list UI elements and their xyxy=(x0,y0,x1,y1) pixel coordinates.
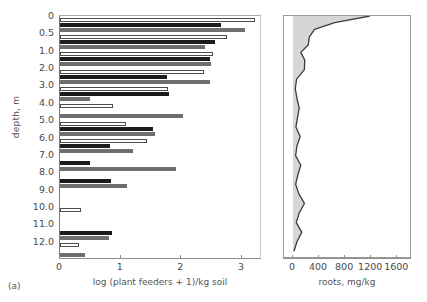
y-tick-label: 2.0 xyxy=(20,63,54,73)
bar-k xyxy=(60,40,215,44)
bar-w xyxy=(60,104,113,108)
roots-area-chart xyxy=(284,16,410,257)
left-x-tick xyxy=(180,255,181,259)
bar-k xyxy=(60,23,221,27)
figure-caption: (a) xyxy=(8,281,21,291)
y-tick-label: 7.0 xyxy=(20,150,54,160)
bar-group xyxy=(60,33,260,50)
bar-w xyxy=(60,243,79,247)
bar-w xyxy=(60,52,213,56)
bar-chart-panel xyxy=(59,15,261,258)
y-tick-label: 6.0 xyxy=(20,133,54,143)
y-tick-label: 10.0 xyxy=(20,202,54,212)
bar-g xyxy=(60,80,210,84)
left-x-tick-label: 3 xyxy=(238,261,244,272)
roots-line xyxy=(294,16,370,251)
left-x-tick-label: 1 xyxy=(117,261,123,272)
bar-k xyxy=(60,231,112,235)
left-x-axis: 0123 xyxy=(59,258,261,278)
bar-w xyxy=(60,139,147,143)
y-tick-label: 5.0 xyxy=(20,115,54,125)
bar-g xyxy=(60,253,85,257)
bar-group xyxy=(60,103,260,120)
right-x-axis-title: roots, mg/kg xyxy=(283,277,411,287)
right-x-tick xyxy=(396,255,397,259)
bar-g xyxy=(60,132,155,136)
y-axis-title: depth, m xyxy=(11,72,21,162)
bar-group xyxy=(60,224,260,241)
right-x-tick-label: 1600 xyxy=(384,261,408,272)
bar-g xyxy=(60,62,211,66)
roots-fill-area xyxy=(293,16,370,251)
y-tick-label: 3.0 xyxy=(20,81,54,91)
bar-g xyxy=(60,184,127,188)
bar-w xyxy=(60,70,204,74)
bar-group xyxy=(60,190,260,207)
bar-k xyxy=(60,92,169,96)
y-axis: 00.51.02.03.04.05.06.07.08.09.010.011.01… xyxy=(16,0,54,302)
y-tick-label: 8.0 xyxy=(20,167,54,177)
bar-w xyxy=(60,35,227,39)
bar-group xyxy=(60,155,260,172)
bar-group xyxy=(60,172,260,189)
bar-k xyxy=(60,75,167,79)
bar-g xyxy=(60,114,183,118)
left-x-tick-label: 0 xyxy=(56,261,62,272)
right-x-tick xyxy=(292,255,293,259)
left-x-tick-label: 2 xyxy=(177,261,183,272)
bar-group xyxy=(60,51,260,68)
bar-k xyxy=(60,179,111,183)
y-tick-label: 0 xyxy=(20,11,54,21)
left-x-tick xyxy=(120,255,121,259)
left-x-axis-title: log (plant feeders + 1)/kg soil xyxy=(59,277,261,287)
bar-w xyxy=(60,208,81,212)
bar-group xyxy=(60,242,260,259)
bar-w xyxy=(60,18,255,22)
bar-k xyxy=(60,57,210,61)
figure-panel-a: 00.51.02.03.04.05.06.07.08.09.010.011.01… xyxy=(0,0,427,302)
y-tick-label: 4.0 xyxy=(20,98,54,108)
bar-g xyxy=(60,236,109,240)
y-tick-label: 0.5 xyxy=(20,29,54,39)
bar-k xyxy=(60,127,153,131)
y-tick-label: 11.0 xyxy=(20,220,54,230)
right-x-tick-label: 1200 xyxy=(358,261,382,272)
bar-g xyxy=(60,149,133,153)
bar-group xyxy=(60,85,260,102)
bar-g xyxy=(60,97,90,101)
bar-group xyxy=(60,207,260,224)
left-x-tick xyxy=(241,255,242,259)
right-x-axis-line xyxy=(283,258,411,259)
right-x-tick xyxy=(370,255,371,259)
bar-g xyxy=(60,45,205,49)
bar-k xyxy=(60,161,90,165)
right-x-tick-label: 0 xyxy=(289,261,295,272)
y-tick-label: 1.0 xyxy=(20,46,54,56)
right-x-tick-label: 800 xyxy=(335,261,353,272)
bar-group xyxy=(60,68,260,85)
bar-g xyxy=(60,28,245,32)
roots-profile-panel xyxy=(283,15,411,258)
left-x-tick xyxy=(59,255,60,259)
y-tick-label: 9.0 xyxy=(20,185,54,195)
bar-group xyxy=(60,16,260,33)
bar-g xyxy=(60,167,176,171)
bar-group xyxy=(60,120,260,137)
left-x-axis-line xyxy=(59,258,261,259)
bar-group xyxy=(60,138,260,155)
bar-w xyxy=(60,122,126,126)
right-x-tick-label: 400 xyxy=(309,261,327,272)
y-tick-label: 12.0 xyxy=(20,237,54,247)
bars-area xyxy=(60,16,260,258)
bar-w xyxy=(60,87,168,91)
right-x-tick xyxy=(318,255,319,259)
right-x-axis: 040080012001600 xyxy=(283,258,411,278)
right-x-tick xyxy=(344,255,345,259)
bar-k xyxy=(60,144,110,148)
